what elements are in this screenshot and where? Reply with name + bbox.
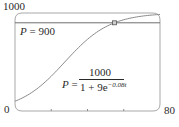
eq-lhs-var: P bbox=[62, 78, 69, 90]
equation-numerator: 1000 bbox=[89, 67, 111, 78]
eq-lhs-eq: = bbox=[69, 78, 78, 90]
hline-var: P bbox=[20, 25, 27, 37]
hline-annotation: P = 900 bbox=[20, 26, 55, 37]
eq-denom-base: 1 + 9e bbox=[80, 81, 108, 93]
equation-denominator: 1 + 9e−0.08t bbox=[80, 82, 127, 93]
x-max-label: 80 bbox=[164, 105, 175, 116]
equation-fraction-bar bbox=[79, 79, 124, 80]
eq-denom-exp: −0.08t bbox=[108, 81, 127, 89]
equation-lhs: P = bbox=[62, 79, 78, 90]
hline-eq: = 900 bbox=[27, 25, 55, 37]
y-max-label: 1000 bbox=[3, 1, 25, 12]
intersection-marker bbox=[113, 21, 117, 25]
logistic-chart bbox=[0, 0, 179, 127]
origin-label: 0 bbox=[4, 104, 10, 115]
